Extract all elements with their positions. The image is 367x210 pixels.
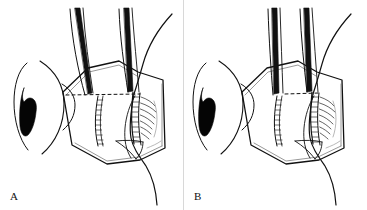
flap-inner-contour [147, 101, 161, 148]
forceps-right [300, 8, 318, 92]
forceps-left [268, 8, 283, 95]
panel-b: B [184, 0, 367, 210]
incision-dashed-line [66, 94, 140, 95]
stitched-seam-left [274, 96, 282, 146]
stitched-seam-right [132, 92, 156, 145]
pupil [20, 88, 37, 136]
stitched-seam-right [311, 92, 335, 145]
panel-b-label: B [194, 190, 202, 202]
flap-inner-contour [326, 101, 340, 148]
figure-root: A [0, 0, 367, 210]
panel-b-illustration [184, 0, 367, 210]
panel-a-illustration [0, 0, 183, 210]
stitched-seam-left [95, 96, 103, 146]
suture-thread [309, 14, 351, 205]
panel-a: A [0, 0, 183, 210]
pupil [199, 88, 216, 136]
tissue-flap [242, 61, 344, 164]
forceps-right [119, 8, 139, 92]
suture-thread [130, 14, 172, 205]
tissue-flap [63, 61, 165, 164]
panel-a-label: A [10, 190, 18, 202]
